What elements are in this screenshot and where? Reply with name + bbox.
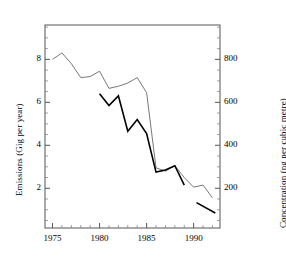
y-tick-label-left: 6 [19, 96, 41, 106]
x-tick-label: 1985 [129, 233, 165, 243]
x-tick-label: 1990 [176, 233, 212, 243]
x-tick-label: 1975 [35, 233, 71, 243]
x-tick-label: 1980 [82, 233, 118, 243]
y-tick-label-left: 8 [19, 53, 41, 63]
chart-canvas [0, 0, 286, 264]
y-tick-label-left: 4 [19, 139, 41, 149]
y-tick-label-right: 600 [224, 96, 250, 106]
chart-figure: Emissions (Gig per year) Concentration (… [0, 0, 286, 264]
y-axis-label-right: Concentration (ng per cubic metre) [278, 98, 286, 228]
y-tick-label-right: 800 [224, 53, 250, 63]
right-axis-ticks [215, 27, 220, 220]
data-series-group [53, 53, 216, 213]
series-line-2 [100, 94, 185, 185]
y-tick-label-right: 400 [224, 139, 250, 149]
bottom-axis-ticks [53, 223, 213, 228]
y-tick-label-left: 2 [19, 182, 41, 192]
y-tick-label-right: 200 [224, 182, 250, 192]
left-axis-ticks [45, 27, 50, 220]
series-line-3 [196, 203, 215, 213]
